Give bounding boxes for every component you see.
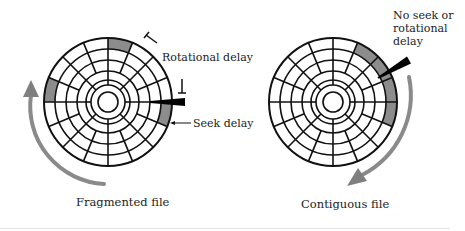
hub-inner	[323, 92, 343, 112]
rotational-delay-marker	[144, 32, 157, 43]
fragmented-file-caption: Fragmented file	[76, 196, 169, 209]
no-seek-label-line3: delay	[393, 35, 423, 48]
seek-delay-label: Seek delay	[193, 117, 254, 130]
contiguous-disk	[269, 38, 411, 166]
seek-delay-marker	[178, 79, 186, 93]
no-seek-label-line1: No seek or	[393, 9, 453, 22]
hub-inner	[98, 92, 118, 112]
seek-delay-leader	[170, 121, 191, 125]
no-seek-label-line2: rotational	[393, 22, 448, 35]
rotational-delay-label: Rotational delay	[162, 51, 253, 64]
divider	[0, 228, 450, 229]
rotation-arrowhead-right	[347, 168, 367, 186]
rotation-arrowhead-left	[23, 80, 39, 97]
contiguous-file-caption: Contiguous file	[301, 198, 389, 211]
